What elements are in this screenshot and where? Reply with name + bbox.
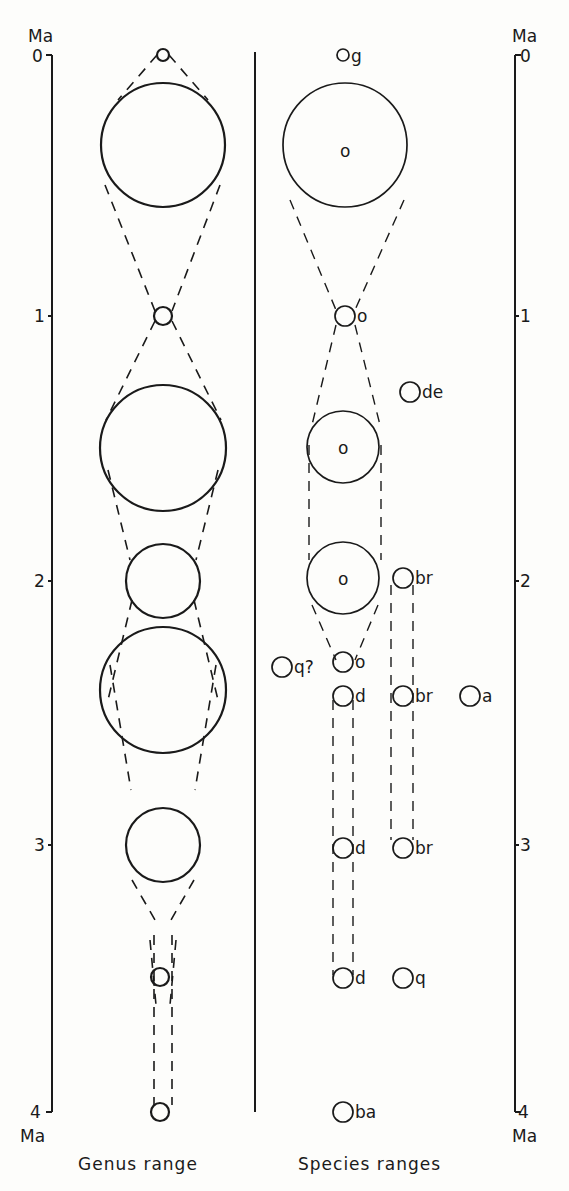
left-tick-0: 0 [32,46,43,66]
species-label-d: d [355,838,366,858]
left-tick-3: 3 [34,835,45,855]
species-label-ba: ba [355,1102,376,1122]
species-label-o: o [338,569,348,589]
genus-range-caption: Genus range [78,1154,198,1174]
species-label-br: br [415,686,433,706]
right-tick-4: 4 [518,1102,529,1122]
species-label-br: br [415,568,433,588]
species-label-o: o [340,141,350,161]
species-label-o: o [357,306,367,326]
genus-circles [100,49,226,1121]
species-label-q: q [415,968,426,988]
left-axis-unit-top: Ma [28,26,53,46]
species-label-d: d [355,968,366,988]
genus-species-range-diagram: Ma 0 1 2 3 4 Ma Ma 0 1 2 3 4 Ma g o o de… [0,0,569,1191]
left-axis-unit-bottom: Ma [20,1126,45,1146]
right-tick-3: 3 [520,835,531,855]
right-tick-1: 1 [520,306,531,326]
species-label-o: o [355,652,365,672]
species-label-g: g [351,46,362,66]
species-circles [272,49,480,1122]
right-tick-0: 0 [520,46,531,66]
species-label-o: o [338,438,348,458]
left-axis [46,55,52,1112]
species-label-de: de [422,382,443,402]
genus-envelope [105,55,221,1105]
right-axis-unit-bottom: Ma [512,1126,537,1146]
species-label-q-query: q? [294,657,314,677]
species-label-br: br [415,838,433,858]
right-tick-2: 2 [520,571,531,591]
species-label-a: a [482,686,492,706]
left-tick-4: 4 [30,1102,41,1122]
species-label-d: d [355,686,366,706]
species-ranges-caption: Species ranges [298,1154,441,1174]
left-tick-2: 2 [34,571,45,591]
right-axis-unit-top: Ma [512,26,537,46]
left-tick-1: 1 [34,306,45,326]
